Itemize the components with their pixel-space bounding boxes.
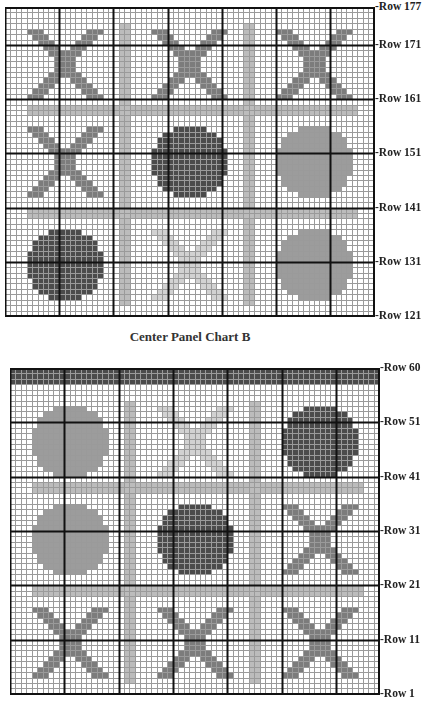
row-label: -Row 141: [375, 202, 421, 214]
row-label: -Row 171: [375, 39, 421, 51]
row-label: -Row 131: [375, 256, 421, 268]
row-label: -Row 1: [380, 688, 415, 700]
row-label: -Row 177: [375, 1, 421, 13]
chart-bottom-grid: [10, 368, 380, 695]
chart-top-grid: [5, 7, 375, 317]
chart-caption: Center Panel Chart B: [0, 329, 380, 345]
row-label: -Row 21: [380, 579, 421, 591]
row-label: -Row 51: [380, 416, 421, 428]
row-label: -Row 31: [380, 525, 421, 537]
row-label: -Row 121: [375, 310, 421, 322]
row-label: -Row 151: [375, 147, 421, 159]
chart-canvas: [10, 368, 380, 695]
row-label: -Row 41: [380, 471, 421, 483]
row-label: -Row 60: [380, 362, 421, 374]
row-label: -Row 11: [380, 634, 420, 646]
row-label: -Row 161: [375, 93, 421, 105]
chart-canvas: [5, 7, 375, 317]
